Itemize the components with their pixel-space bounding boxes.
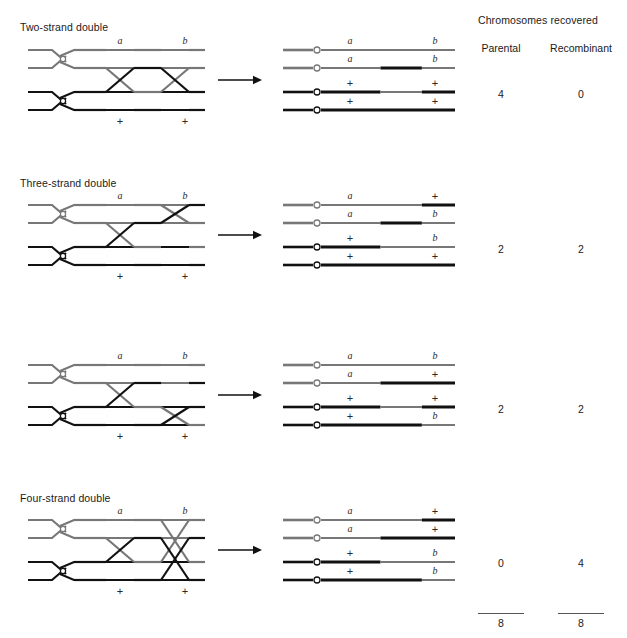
product-label-right-r2-c4: + bbox=[426, 250, 444, 262]
centromere-product bbox=[314, 404, 320, 410]
centromere-product bbox=[314, 535, 320, 541]
left-label-plus-left-row-2: + bbox=[111, 270, 129, 282]
centromere-product bbox=[314, 380, 320, 386]
left-label-plus-left-row-3: + bbox=[111, 430, 129, 442]
centromere-product bbox=[314, 362, 320, 368]
left-label-plus-right-row-3: + bbox=[176, 430, 194, 442]
product-label-left-r2-c2: a bbox=[341, 208, 359, 219]
left-label-plus-right-row-1: + bbox=[176, 115, 194, 127]
transition-arrow-head bbox=[253, 546, 262, 554]
left-label-b-row-1: b bbox=[176, 35, 194, 46]
centromere-product bbox=[314, 65, 320, 71]
centromere-left bbox=[60, 253, 65, 258]
left-label-plus-right-row-2: + bbox=[176, 270, 194, 282]
product-label-right-r3-c2: + bbox=[426, 368, 444, 380]
product-label-left-r2-c1: a bbox=[341, 190, 359, 201]
product-label-left-r4-c4: + bbox=[341, 565, 359, 577]
centromere-product bbox=[314, 422, 320, 428]
product-label-right-r1-c4: + bbox=[426, 95, 444, 107]
centromere-left bbox=[60, 526, 65, 531]
centromere-left bbox=[60, 413, 65, 418]
product-label-right-r2-c3: b bbox=[426, 232, 444, 243]
centromere-left bbox=[60, 568, 65, 573]
product-label-right-r1-c2: b bbox=[426, 53, 444, 64]
product-label-right-r4-c2: + bbox=[426, 523, 444, 535]
transition-arrow-head bbox=[253, 76, 262, 84]
product-label-left-r1-c2: a bbox=[341, 53, 359, 64]
product-label-left-r1-c1: a bbox=[341, 35, 359, 46]
transition-arrow-head bbox=[253, 391, 262, 399]
centromere-product bbox=[314, 262, 320, 268]
left-label-a-row-4: a bbox=[111, 505, 129, 516]
product-label-left-r3-c3: + bbox=[341, 392, 359, 404]
left-label-a-row-1: a bbox=[111, 35, 129, 46]
product-label-left-r2-c4: + bbox=[341, 250, 359, 262]
centromere-product bbox=[314, 89, 320, 95]
transition-arrow-head bbox=[253, 231, 262, 239]
centromere-product bbox=[314, 220, 320, 226]
left-label-a-row-3: a bbox=[111, 350, 129, 361]
centromere-product bbox=[314, 47, 320, 53]
left-label-plus-left-row-1: + bbox=[111, 115, 129, 127]
left-label-a-row-2: a bbox=[111, 190, 129, 201]
centromere-left bbox=[60, 371, 65, 376]
left-label-plus-left-row-4: + bbox=[111, 585, 129, 597]
left-label-b-row-3: b bbox=[176, 350, 194, 361]
centromere-product bbox=[314, 202, 320, 208]
product-label-right-r2-c2: b bbox=[426, 208, 444, 219]
product-label-left-r1-c3: + bbox=[341, 77, 359, 89]
product-label-left-r3-c1: a bbox=[341, 350, 359, 361]
product-label-right-r1-c3: + bbox=[426, 77, 444, 89]
centromere-left bbox=[60, 56, 65, 61]
centromere-product bbox=[314, 107, 320, 113]
product-label-right-r4-c1: + bbox=[426, 505, 444, 517]
centromere-left bbox=[60, 211, 65, 216]
product-label-left-r2-c3: + bbox=[341, 232, 359, 244]
centromere-product bbox=[314, 517, 320, 523]
product-label-left-r3-c2: a bbox=[341, 368, 359, 379]
product-label-right-r2-c1: + bbox=[426, 190, 444, 202]
product-label-left-r3-c4: + bbox=[341, 410, 359, 422]
left-label-b-row-2: b bbox=[176, 190, 194, 201]
product-label-left-r4-c1: a bbox=[341, 505, 359, 516]
left-label-plus-right-row-4: + bbox=[176, 585, 194, 597]
product-label-left-r4-c3: + bbox=[341, 547, 359, 559]
centromere-product bbox=[314, 577, 320, 583]
product-label-right-r4-c3: b bbox=[426, 547, 444, 558]
product-label-right-r3-c3: + bbox=[426, 392, 444, 404]
centromere-product bbox=[314, 559, 320, 565]
figure-root: Chromosomes recovered Parental Recombina… bbox=[0, 0, 627, 638]
product-label-right-r4-c4: b bbox=[426, 565, 444, 576]
product-label-left-r4-c2: a bbox=[341, 523, 359, 534]
product-label-right-r3-c4: b bbox=[426, 410, 444, 421]
centromere-product bbox=[314, 244, 320, 250]
product-label-left-r1-c4: + bbox=[341, 95, 359, 107]
chromosome-diagram bbox=[0, 0, 627, 638]
product-label-right-r3-c1: b bbox=[426, 350, 444, 361]
centromere-left bbox=[60, 98, 65, 103]
product-label-right-r1-c1: b bbox=[426, 35, 444, 46]
left-label-b-row-4: b bbox=[176, 505, 194, 516]
